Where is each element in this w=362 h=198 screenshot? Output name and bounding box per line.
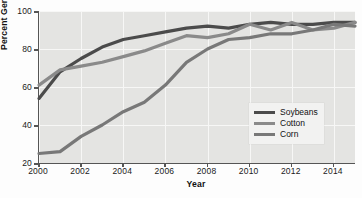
legend-item-cotton[interactable]: Cotton xyxy=(254,118,318,129)
series-line-soybeans xyxy=(39,22,355,98)
y-tick-mark xyxy=(34,87,38,89)
legend: SoybeansCottonCorn xyxy=(249,103,324,144)
y-tick-label: 60 xyxy=(22,82,32,92)
y-axis-title: Percent Genetically Modified xyxy=(0,0,9,50)
y-tick-label: 80 xyxy=(22,44,32,54)
x-tick-label: 2006 xyxy=(155,166,175,176)
x-tick-label: 2002 xyxy=(70,166,90,176)
legend-swatch-icon xyxy=(254,122,275,125)
legend-item-corn[interactable]: Corn xyxy=(254,129,318,140)
y-tick-mark xyxy=(34,163,38,165)
chart-container: Percent Genetically Modified Year Soybea… xyxy=(0,0,362,198)
x-tick-label: 2010 xyxy=(239,166,259,176)
x-tick-label: 2014 xyxy=(323,166,343,176)
x-tick-label: 2012 xyxy=(281,166,301,176)
legend-swatch-icon xyxy=(254,111,275,114)
x-tick-label: 2004 xyxy=(112,166,132,176)
x-axis-title: Year xyxy=(187,179,206,189)
legend-item-soybeans[interactable]: Soybeans xyxy=(254,107,318,118)
legend-label: Corn xyxy=(280,129,298,140)
y-tick-label: 40 xyxy=(22,120,32,130)
y-tick-mark xyxy=(34,49,38,51)
y-tick-label: 20 xyxy=(22,158,32,168)
legend-swatch-icon xyxy=(254,133,275,136)
legend-label: Cotton xyxy=(280,118,305,129)
y-tick-label: 100 xyxy=(17,6,32,16)
legend-label: Soybeans xyxy=(280,107,318,118)
y-tick-mark xyxy=(34,11,38,13)
y-tick-mark xyxy=(34,125,38,127)
x-tick-label: 2008 xyxy=(197,166,217,176)
